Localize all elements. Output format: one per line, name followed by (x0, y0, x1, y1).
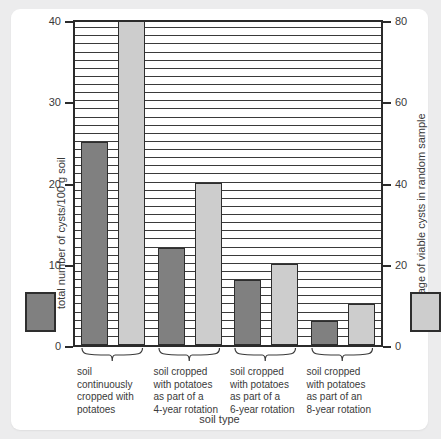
category-label-line: as part of a (154, 391, 229, 404)
legend-swatch-viable-percentage (410, 292, 441, 332)
category-label-line: 4-year rotation (154, 404, 229, 417)
left-axis-title: total number of cysts/100 g soil (55, 157, 67, 309)
right-axis-tick (383, 102, 391, 104)
bar-viable-percentage-group-3 (271, 264, 298, 345)
right-axis-tick (383, 21, 391, 23)
right-axis-tick (383, 265, 391, 267)
category-label-1: soilcontinuouslycropped withpotatoes (77, 366, 152, 416)
right-axis-tick-label: 80 (395, 16, 425, 27)
bar-total-cysts-group-2 (158, 248, 185, 346)
category-label-line: 6-year rotation (230, 404, 305, 417)
left-axis-tick-label: 40 (31, 16, 61, 27)
category-label-4: soil croppedwith potatoesas part of an8-… (307, 366, 382, 416)
category-label-2: soil croppedwith potatoesas part of a4-y… (154, 366, 229, 416)
left-axis-tick (65, 102, 73, 104)
group-brace-2 (158, 347, 221, 363)
group-brace-1 (81, 347, 144, 363)
category-label-line: continuously (77, 379, 152, 392)
category-labels: soilcontinuouslycropped withpotatoessoil… (73, 366, 383, 418)
category-label-line: soil cropped (307, 366, 382, 379)
group-brace-3 (234, 347, 297, 363)
category-label-line: as part of a (230, 391, 305, 404)
left-axis-tick-label: 30 (31, 97, 61, 108)
bar-total-cysts-group-1 (81, 142, 108, 345)
category-label-line: soil (77, 366, 152, 379)
category-label-3: soil croppedwith potatoesas part of a6-y… (230, 366, 305, 416)
right-axis-tick-label: 0 (395, 341, 425, 352)
bar-total-cysts-group-4 (311, 321, 338, 345)
plot-area (73, 20, 383, 347)
left-axis-tick-label: 0 (31, 341, 61, 352)
category-label-line: as part of an (307, 391, 382, 404)
category-label-line: potatoes (77, 404, 152, 417)
left-axis-tick (65, 346, 73, 348)
bar-series-container (75, 20, 381, 345)
category-label-line: 8-year rotation (307, 404, 382, 417)
category-label-line: soil cropped (230, 366, 305, 379)
category-label-line: with potatoes (307, 379, 382, 392)
category-label-line: cropped with (77, 391, 152, 404)
category-braces (73, 347, 383, 367)
right-axis-tick (383, 346, 391, 348)
group-brace-4 (311, 347, 374, 363)
category-label-line: with potatoes (230, 379, 305, 392)
bar-viable-percentage-group-1 (118, 20, 145, 345)
chart-card: 010203040 020406080 total number of cyst… (11, 9, 428, 430)
right-axis-tick (383, 184, 391, 186)
right-axis-tick-label: 60 (395, 97, 425, 108)
bar-total-cysts-group-3 (234, 280, 261, 345)
bar-viable-percentage-group-2 (195, 183, 222, 346)
legend-swatch-total-cysts (25, 292, 56, 332)
category-label-line: with potatoes (154, 379, 229, 392)
bar-viable-percentage-group-4 (348, 304, 375, 345)
plot-top-rule (73, 20, 383, 22)
left-axis-tick (65, 21, 73, 23)
category-label-line: soil cropped (154, 366, 229, 379)
